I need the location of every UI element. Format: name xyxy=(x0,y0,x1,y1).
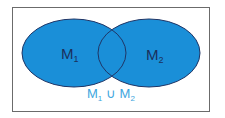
set-m1-label: M1 xyxy=(61,46,79,64)
union-operator: ∪ xyxy=(106,86,116,101)
set-m2-label: M2 xyxy=(146,47,164,65)
union-caption: M1 ∪ M2 xyxy=(87,87,135,103)
